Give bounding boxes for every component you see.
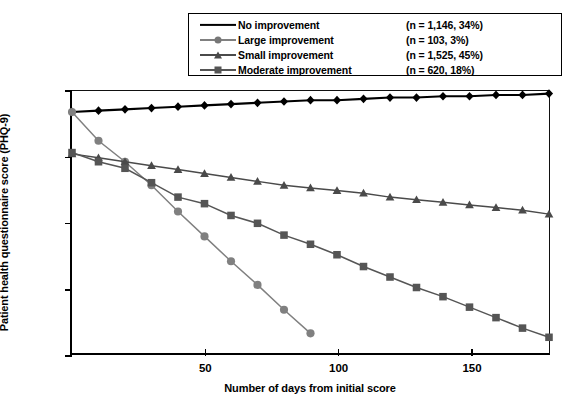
square-data-point [492,314,500,322]
legend-item-large-improvement: Large improvement (n = 103, 3%) [189,33,561,47]
diamond-data-point [518,91,526,100]
y-axis-title: Patient health questionnaire score (PHQ-… [0,90,14,355]
series-large-improvement [68,108,315,337]
square-data-point [307,241,315,249]
x-tick-label-150: 150 [462,362,481,374]
chart-legend: No improvement (n = 1,146, 34%) Large im… [188,13,562,76]
legend-label-large-improvement: Large improvement [238,34,406,46]
series-no-improvement [68,89,553,116]
diamond-data-point [174,102,182,111]
diamond-data-point [359,95,367,104]
square-data-point [68,149,76,157]
circle-marker-icon [215,37,222,44]
x-tick-label-100: 100 [329,362,348,374]
y-tick-10 [65,223,72,225]
legend-count-no-improvement: (n = 1,146, 34%) [406,19,483,31]
square-marker-icon [215,67,222,74]
diamond-data-point [147,104,155,113]
series-canvas [72,91,549,353]
legend-label-moderate-improvement: Moderate improvement [238,64,406,76]
diamond-data-point [121,105,129,114]
x-tick-150 [471,349,473,356]
square-data-point [466,303,474,311]
diamond-data-point [465,92,473,101]
y-tick-15 [65,157,72,159]
y-tick-20 [65,90,72,92]
circle-data-point [94,137,102,145]
circle-data-point [174,207,182,215]
legend-key-moderate-improvement [198,64,238,76]
legend-label-small-improvement: Small improvement [238,49,406,61]
diamond-data-point [412,93,420,102]
legend-label-no-improvement: No improvement [238,19,406,31]
diamond-data-point [253,98,261,107]
legend-count-moderate-improvement: (n = 620, 18%) [406,64,474,76]
circle-data-point [280,306,288,314]
circle-data-point [227,257,235,265]
square-data-point [148,179,156,187]
square-data-point [254,220,262,228]
diamond-data-point [94,106,102,115]
circle-data-point [68,108,76,116]
legend-key-large-improvement [198,34,238,46]
legend-key-small-improvement [198,49,238,61]
triangle-marker-icon [214,52,222,59]
x-tick-50 [205,349,207,356]
square-data-point [333,251,341,259]
diamond-data-point [333,96,341,105]
square-data-point [439,293,447,301]
x-tick-100 [338,349,340,356]
diamond-data-point [280,97,288,106]
diamond-data-point [200,101,208,110]
legend-item-small-improvement: Small improvement (n = 1,525, 45%) [189,48,561,62]
legend-count-small-improvement: (n = 1,525, 45%) [406,49,483,61]
square-data-point [386,273,394,281]
diamond-data-point [439,92,447,101]
legend-key-no-improvement [198,19,238,31]
square-data-point [413,284,421,292]
legend-item-moderate-improvement: Moderate improvement (n = 620, 18%) [189,63,561,77]
diamond-data-point [306,96,314,105]
square-data-point [519,324,527,332]
square-data-point [227,212,235,220]
x-axis-title: Number of days from initial score [70,382,550,394]
plot-area: 05101520 50100150 [70,90,550,355]
legend-item-no-improvement: No improvement (n = 1,146, 34%) [189,18,561,32]
circle-data-point [306,329,314,337]
diamond-data-point [492,91,500,100]
square-data-point [280,231,288,239]
square-data-point [121,165,129,173]
circle-data-point [253,281,261,289]
square-data-point [545,334,553,342]
circle-data-point [200,232,208,240]
chart-figure: No improvement (n = 1,146, 34%) Large im… [0,0,577,415]
series-line [72,112,311,333]
diamond-data-point [227,100,235,109]
x-tick-label-50: 50 [199,362,212,374]
diamond-data-point [386,93,394,102]
y-tick-0 [65,355,72,357]
series-small-improvement [68,150,554,218]
diamond-data-point [545,89,553,98]
square-data-point [201,200,209,208]
square-data-point [95,158,103,166]
y-tick-5 [65,289,72,291]
square-data-point [174,193,182,201]
legend-count-large-improvement: (n = 103, 3%) [406,34,469,46]
square-data-point [360,263,368,271]
series-moderate-improvement [68,149,553,341]
